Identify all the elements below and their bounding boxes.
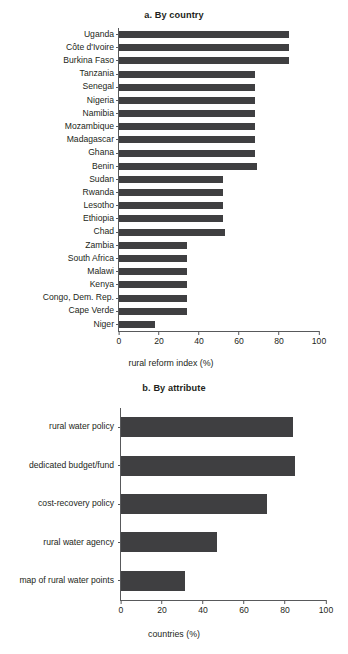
bar-category-label: Senegal bbox=[82, 82, 119, 92]
chart-b-title: b. By attribute bbox=[0, 383, 348, 393]
x-tick-mark bbox=[199, 331, 200, 335]
bar-row: Cape Verde bbox=[119, 305, 319, 318]
bar-row: dedicated budget/fund bbox=[121, 446, 326, 484]
bar-row: South Africa bbox=[119, 252, 319, 265]
bar-category-label: Niger bbox=[93, 320, 119, 330]
x-tick-mark bbox=[279, 331, 280, 335]
bar-category-label: Chad bbox=[93, 227, 119, 237]
bar bbox=[119, 123, 255, 130]
bar-row: map of rural water points bbox=[121, 562, 326, 600]
x-tick-label: 60 bbox=[239, 605, 249, 615]
bar-row: Burkina Faso bbox=[119, 54, 319, 67]
x-tick: 80 bbox=[274, 331, 284, 346]
x-tick-label: 40 bbox=[194, 336, 204, 346]
bar bbox=[121, 456, 295, 476]
bar bbox=[119, 97, 255, 104]
x-tick-mark bbox=[319, 331, 320, 335]
bar bbox=[121, 417, 293, 437]
x-tick-label: 0 bbox=[117, 336, 122, 346]
bar bbox=[119, 242, 187, 249]
x-tick: 0 bbox=[119, 600, 124, 615]
x-tick-label: 0 bbox=[119, 605, 124, 615]
bar-category-label: dedicated budget/fund bbox=[2, 461, 121, 471]
bar-row: Zambia bbox=[119, 239, 319, 252]
bar-row: Malawi bbox=[119, 265, 319, 278]
bar-row: Senegal bbox=[119, 81, 319, 94]
bar-category-label: Cape Verde bbox=[69, 306, 119, 316]
x-tick-label: 80 bbox=[274, 336, 284, 346]
bar bbox=[119, 295, 187, 302]
chart-b-x-axis-title: countries (%) bbox=[0, 629, 348, 639]
x-tick: 60 bbox=[239, 600, 249, 615]
bar bbox=[119, 268, 187, 275]
x-tick: 40 bbox=[194, 331, 204, 346]
chart-a-x-axis-title: rural reform index (%) bbox=[0, 358, 345, 368]
bar-row: Rwanda bbox=[119, 186, 319, 199]
bar bbox=[119, 176, 223, 183]
bar-category-label: South Africa bbox=[68, 254, 119, 264]
bar-category-label: Congo, Dem. Rep. bbox=[43, 293, 119, 303]
bar-row: Côte d'Ivoire bbox=[119, 41, 319, 54]
bar-row: Lesotho bbox=[119, 199, 319, 212]
x-tick-mark bbox=[326, 600, 327, 604]
bar-category-label: Rwanda bbox=[82, 188, 119, 198]
x-tick-mark bbox=[162, 600, 163, 604]
bar-category-label: Nigeria bbox=[87, 96, 119, 106]
bar-row: cost-recovery policy bbox=[121, 485, 326, 523]
bar bbox=[119, 44, 289, 51]
bar bbox=[119, 321, 155, 328]
bar-category-label: rural water agency bbox=[2, 538, 121, 548]
x-tick: 60 bbox=[234, 331, 244, 346]
bar bbox=[121, 571, 185, 591]
x-tick: 20 bbox=[154, 331, 164, 346]
x-tick-mark bbox=[203, 600, 204, 604]
bar bbox=[119, 189, 223, 196]
bar bbox=[119, 202, 223, 209]
bar-row: Namibia bbox=[119, 107, 319, 120]
bar-category-label: Burkina Faso bbox=[63, 56, 119, 66]
bar bbox=[121, 494, 267, 514]
bar-row: Benin bbox=[119, 160, 319, 173]
chart-by-country: a. By country UgandaCôte d'IvoireBurkina… bbox=[0, 0, 348, 378]
x-tick: 80 bbox=[280, 600, 290, 615]
bar-category-label: Kenya bbox=[90, 280, 119, 290]
bar-category-label: Ghana bbox=[88, 148, 119, 158]
bar bbox=[119, 71, 255, 78]
bar-row: Ethiopia bbox=[119, 212, 319, 225]
bar-row: Congo, Dem. Rep. bbox=[119, 291, 319, 304]
x-tick: 40 bbox=[198, 600, 208, 615]
bar-row: Sudan bbox=[119, 173, 319, 186]
bar-category-label: Mozambique bbox=[65, 122, 119, 132]
chart-a-title: a. By country bbox=[0, 10, 348, 20]
bar-row: Chad bbox=[119, 226, 319, 239]
chart-a-bar-rows: UgandaCôte d'IvoireBurkina FasoTanzaniaS… bbox=[119, 28, 319, 331]
bar bbox=[119, 57, 289, 64]
x-tick-mark bbox=[239, 331, 240, 335]
bar-category-label: Malawi bbox=[87, 267, 119, 277]
bar-category-label: Benin bbox=[92, 162, 119, 172]
x-tick-label: 60 bbox=[234, 336, 244, 346]
bar-row: Madagascar bbox=[119, 133, 319, 146]
bar bbox=[121, 532, 217, 552]
x-tick-label: 80 bbox=[280, 605, 290, 615]
chart-a-x-axis-line bbox=[118, 331, 319, 332]
bar bbox=[119, 229, 225, 236]
bar-row: rural water policy bbox=[121, 408, 326, 446]
bar bbox=[119, 110, 255, 117]
bar-row: Kenya bbox=[119, 278, 319, 291]
bar-category-label: Tanzania bbox=[80, 69, 119, 79]
x-tick-mark bbox=[119, 331, 120, 335]
x-tick-label: 20 bbox=[157, 605, 167, 615]
bar-category-label: map of rural water points bbox=[2, 576, 121, 586]
x-tick-label: 100 bbox=[319, 605, 333, 615]
bar bbox=[119, 84, 255, 91]
x-tick: 100 bbox=[312, 331, 326, 346]
bar bbox=[119, 281, 187, 288]
x-tick-label: 40 bbox=[198, 605, 208, 615]
bar-category-label: Madagascar bbox=[67, 135, 119, 145]
bar-category-label: Uganda bbox=[84, 30, 119, 40]
bar bbox=[119, 31, 289, 38]
chart-a-plot-area: UgandaCôte d'IvoireBurkina FasoTanzaniaS… bbox=[119, 28, 319, 331]
x-tick-label: 100 bbox=[312, 336, 326, 346]
x-tick-label: 20 bbox=[154, 336, 164, 346]
